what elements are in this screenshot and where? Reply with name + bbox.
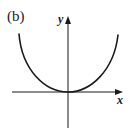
y-axis: y: [56, 12, 71, 128]
panel-label: (b): [7, 8, 25, 25]
y-axis-arrow-icon: [65, 16, 71, 24]
x-axis-label: x: [116, 93, 123, 107]
y-axis-label: y: [56, 12, 64, 26]
parabola-diagram: (b) x y: [0, 0, 132, 130]
